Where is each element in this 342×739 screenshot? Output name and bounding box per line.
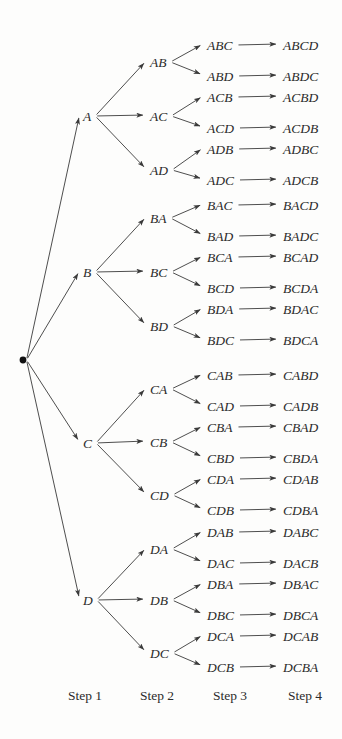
edge-ad-to-adc [174, 171, 200, 179]
edge-c-to-cb [98, 441, 143, 443]
edge-da-to-dab [174, 533, 201, 548]
edge-cad-to-cadb [240, 405, 276, 406]
tree-node-adbc: ADBC [282, 142, 319, 157]
tree-node-bda: BDA [207, 302, 234, 317]
edge-bca-to-bcad [238, 256, 275, 257]
tree-node-abcd: ABCD [282, 38, 318, 53]
tree-node-cdba: CDBA [283, 503, 319, 518]
edge-a-to-ab [97, 63, 144, 114]
tree-node-c: C [83, 436, 93, 451]
tree-node-bc: BC [150, 265, 168, 280]
edge-ab-to-abc [172, 46, 200, 61]
edge-cb-to-cba [173, 427, 200, 441]
edge-dc-to-dca [174, 637, 200, 652]
tree-node-bacd: BACD [283, 198, 318, 213]
edge-cbd-to-cbda [240, 457, 276, 458]
edge-cda-to-cdab [240, 478, 276, 479]
edge-ab-to-abd [172, 63, 200, 74]
tree-node-ac: AC [149, 109, 168, 124]
nodes-layer: ABCDABACADBABCBDCACBCDDADBDCABCABDACBACD… [20, 38, 320, 675]
tree-node-cb: CB [150, 435, 167, 450]
edge-ca-to-cad [173, 390, 200, 404]
tree-node-ad: AD [149, 163, 168, 178]
tree-node-bd: BD [150, 319, 168, 334]
tree-node-badc: BADC [283, 229, 319, 244]
edge-b-to-bd [97, 273, 144, 322]
edge-bd-to-bdc [174, 327, 200, 338]
tree-node-dbac: DBAC [282, 577, 319, 592]
edge-bac-to-bacd [238, 204, 275, 205]
edge-adb-to-adbc [239, 148, 276, 149]
edge-c-to-ca [97, 390, 143, 441]
edge-abd-to-abdc [239, 75, 276, 76]
edge-bd-to-bda [174, 310, 201, 325]
tree-node-abdc: ABDC [282, 69, 319, 84]
edge-cd-to-cdb [175, 496, 201, 508]
edge-ba-to-bad [172, 219, 200, 234]
tree-node-d: D [82, 593, 93, 608]
tree-node-bcda: BCDA [283, 281, 319, 296]
tree-node-dcab: DCAB [282, 629, 318, 644]
tree-node-bdca: BDCA [283, 333, 319, 348]
tree-node-bca: BCA [207, 250, 233, 265]
edge-root-to-a [27, 118, 79, 358]
edge-dca-to-dcab [240, 635, 276, 636]
tree-node-ba: BA [150, 211, 167, 226]
tree-node-dabc: DABC [282, 525, 319, 540]
tree-node-cdab: CDAB [283, 472, 318, 487]
edge-ac-to-acb [173, 98, 200, 115]
edge-bcd-to-bcda [240, 287, 276, 288]
edge-dba-to-dbac [239, 583, 276, 584]
tree-node-cba: CBA [207, 420, 233, 435]
tree-node-bad: BAD [207, 229, 233, 244]
edge-d-to-da [98, 550, 144, 598]
tree-node-dcba: DCBA [282, 660, 319, 675]
tree-node-bcd: BCD [207, 281, 234, 296]
tree-node-dcb: DCB [206, 660, 234, 675]
tree-node-bdc: BDC [207, 333, 235, 348]
edge-acd-to-acdb [240, 127, 276, 128]
tree-node-abd: ABD [206, 69, 233, 84]
tree-node-acd: ACD [206, 121, 234, 136]
edge-bc-to-bca [173, 257, 200, 271]
edge-a-to-ac [97, 115, 143, 116]
edge-ac-to-acd [173, 117, 200, 126]
tree-node-dac: DAC [206, 556, 235, 571]
step-label-step3: Step 3 [213, 688, 247, 703]
edge-bad-to-badc [239, 235, 276, 236]
edge-root-to-b [28, 274, 78, 359]
tree-node-db: DB [149, 593, 168, 608]
tree-node-abc: ABC [206, 38, 233, 53]
step-labels-layer: Step 1Step 2Step 3Step 4 [68, 688, 322, 703]
tree-node-adc: ADC [206, 173, 235, 188]
edge-bdc-to-bdca [240, 339, 276, 340]
permutation-tree-diagram: ABCDABACADBABCBDCACBCDDADBDCABCABDACBACD… [0, 0, 342, 739]
edge-da-to-dac [174, 550, 200, 561]
edge-cb-to-cbd [173, 443, 200, 456]
tree-node-bac: BAC [207, 198, 233, 213]
tree-node-ca: CA [150, 382, 168, 397]
edge-bda-to-bdac [239, 308, 276, 309]
edge-cab-to-cabd [238, 374, 275, 375]
tree-node-acdb: ACDB [282, 121, 318, 136]
tree-node-bdac: BDAC [283, 302, 319, 317]
step-label-step4: Step 4 [288, 688, 322, 703]
edge-b-to-bc [97, 271, 143, 272]
edge-ad-to-adb [174, 150, 201, 169]
edge-dbc-to-dbca [240, 614, 276, 615]
tree-node-dbc: DBC [206, 608, 235, 623]
edge-bc-to-bcd [173, 273, 200, 286]
edge-adc-to-adcb [240, 179, 276, 180]
tree-node-cbda: CBDA [283, 451, 319, 466]
edge-dac-to-dacb [240, 562, 276, 563]
edge-d-to-db [99, 599, 143, 600]
tree-node-da: DA [149, 542, 169, 557]
edge-root-to-d [27, 362, 79, 596]
edge-b-to-ba [97, 219, 144, 270]
edge-d-to-dc [98, 601, 144, 649]
tree-svg-canvas: ABCDABACADBABCBDCACBCDDADBDCABCABDACBACD… [0, 0, 342, 739]
tree-node-dba: DBA [206, 577, 234, 592]
edge-a-to-ad [97, 117, 144, 166]
tree-node-cad: CAD [207, 399, 234, 414]
edge-acb-to-acbd [238, 96, 275, 97]
